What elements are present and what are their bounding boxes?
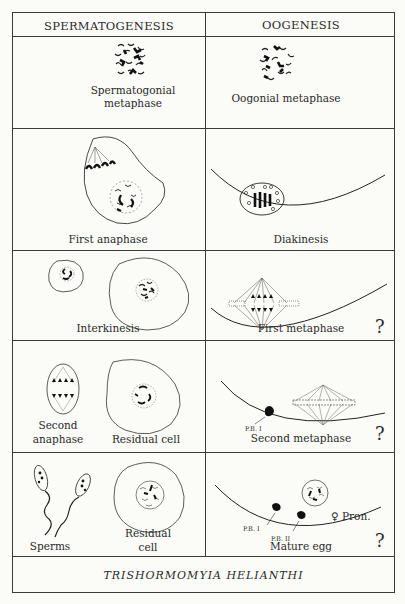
label-second: Second — [23, 418, 93, 432]
row-divider — [13, 452, 394, 453]
header-oogenesis: OOGENESIS — [206, 18, 396, 32]
label-second-metaphase: Second metaphase — [206, 432, 396, 445]
label-cell: cell — [113, 540, 183, 554]
label-first-metaphase: First metaphase — [206, 322, 396, 335]
meiosis-comparison-table: SPERMATOGENESIS OOGENESIS Spermatogonial… — [12, 12, 395, 593]
question-mark: ? — [375, 423, 385, 444]
label-interkinesis: Interkinesis — [33, 322, 183, 335]
header-spermatogenesis: SPERMATOGENESIS — [13, 19, 205, 33]
label-sperms: Sperms — [25, 539, 75, 553]
spermatogonial-chromosomes-icon — [110, 38, 154, 82]
label-first-anaphase: First anaphase — [33, 233, 183, 246]
row-divider — [13, 128, 394, 129]
diakinesis-egg-icon — [209, 163, 389, 233]
row-divider — [13, 340, 394, 341]
label-pb1: P.B. I — [243, 525, 260, 533]
oogonial-chromosomes-icon — [256, 42, 298, 82]
question-mark: ? — [375, 530, 385, 551]
label-diakinesis: Diakinesis — [206, 233, 396, 246]
residual-cell-icon — [105, 358, 185, 436]
sperms-icon — [23, 463, 98, 541]
second-metaphase-egg-icon — [209, 379, 389, 439]
species-name: TRISHORMOMYIA HELIANTHI — [13, 556, 394, 594]
first-anaphase-cell-icon — [73, 133, 173, 233]
question-mark: ? — [375, 316, 385, 337]
label-female-pronucleus: ♀ Pron. — [331, 510, 391, 523]
label-oogonial-metaphase: Oogonial metaphase — [206, 92, 366, 105]
label-residual-cell: Residual cell — [101, 432, 191, 446]
header-divider — [13, 36, 394, 37]
row-divider — [13, 250, 394, 251]
label-anaphase: anaphase — [23, 432, 93, 446]
second-anaphase-cell-icon — [43, 363, 83, 415]
interkinesis-cells-icon — [43, 258, 203, 328]
label-spermatogonial: Spermatogonial — [68, 84, 198, 97]
label-mature-egg: Mature egg — [206, 540, 396, 553]
label-residual: Residual — [113, 526, 183, 540]
label-metaphase: metaphase — [68, 97, 198, 110]
